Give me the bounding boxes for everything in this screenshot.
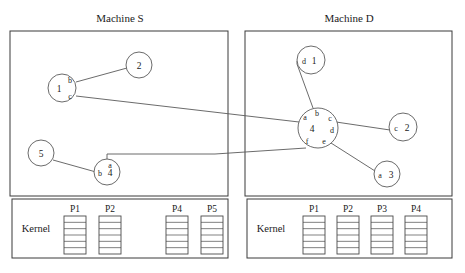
port-label-node-d1-d: d <box>302 57 306 66</box>
link-link-4s-a-to-4d-f <box>107 148 306 159</box>
node-label-node-5: 5 <box>39 149 44 159</box>
port-label-node-4-s-b: b <box>98 169 102 178</box>
link-link-1c-to-4d-a <box>76 96 299 122</box>
node-label-node-1: 1 <box>57 84 62 94</box>
machine-box-machine-d <box>245 31 452 196</box>
kernel-label-machine-s: Kernel <box>22 223 51 234</box>
network-diagram-canvas: Machine SKernelP1P2P4P5Machine DKernelP1… <box>0 0 465 273</box>
port-label-node-4-s-a: a <box>108 161 112 170</box>
node-label-node-4-d: 4 <box>310 124 315 134</box>
process-label-machine-s-p4: P4 <box>172 204 182 214</box>
port-label-node-4-d-a: a <box>303 113 307 122</box>
link-link-5-to-4s <box>53 160 96 172</box>
node-label-node-2: 2 <box>137 61 142 71</box>
process-label-machine-s-p2: P2 <box>105 204 115 214</box>
process-label-machine-s-p1: P1 <box>70 204 80 214</box>
node-label-node-c2: 2 <box>405 123 410 133</box>
node-circle-node-c2[interactable] <box>389 113 417 141</box>
port-label-node-4-d-f: f <box>306 137 309 146</box>
machine-title-machine-s: Machine S <box>96 12 143 24</box>
machine-title-machine-d: Machine D <box>324 12 373 24</box>
process-label-machine-d-p4: P4 <box>411 204 421 214</box>
process-label-machine-d-p1: P1 <box>309 204 319 214</box>
node-label-node-a3: 3 <box>389 170 394 180</box>
link-link-4d-c-to-c2 <box>336 122 390 130</box>
port-label-node-4-d-c: c <box>328 114 332 123</box>
process-label-machine-d-p2: P2 <box>343 204 353 214</box>
process-label-machine-d-p3: P3 <box>377 204 387 214</box>
process-label-machine-s-p5: P5 <box>207 204 217 214</box>
link-link-4d-e-to-a3 <box>331 143 375 171</box>
port-label-node-c2-c: c <box>394 124 398 133</box>
port-label-node-4-d-e: e <box>322 137 326 146</box>
link-link-1b-to-2 <box>76 68 127 82</box>
port-label-node-1-c: c <box>68 92 72 101</box>
diagram-page: Machine SKernelP1P2P4P5Machine DKernelP1… <box>0 0 465 273</box>
port-label-node-1-b: b <box>68 76 72 85</box>
node-label-node-d1: 1 <box>312 56 317 66</box>
port-label-node-4-d-d: d <box>330 126 334 135</box>
kernel-label-machine-d: Kernel <box>257 223 286 234</box>
port-label-node-4-d-b: b <box>315 109 319 118</box>
port-label-node-a3-a: a <box>378 171 382 180</box>
